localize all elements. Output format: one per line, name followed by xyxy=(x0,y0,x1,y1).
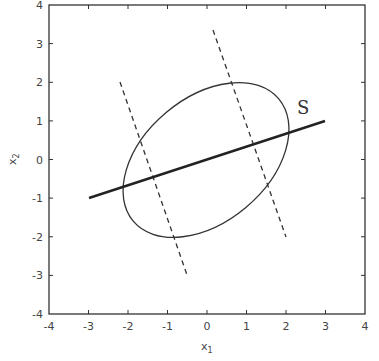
svg-text:1: 1 xyxy=(243,320,250,333)
svg-text:x2: x2 xyxy=(6,153,21,165)
line-s xyxy=(89,121,325,198)
svg-text:-1: -1 xyxy=(162,320,173,333)
svg-text:3: 3 xyxy=(322,320,329,333)
svg-text:0: 0 xyxy=(204,320,211,333)
svg-text:1: 1 xyxy=(36,115,43,128)
y-axis-label: x2 xyxy=(6,153,21,165)
svg-text:-1: -1 xyxy=(32,192,43,205)
y-tick-labels: 4 3 2 1 0 -1 -2 -3 -4 xyxy=(32,0,43,321)
svg-text:-2: -2 xyxy=(123,320,134,333)
svg-text:-4: -4 xyxy=(44,320,55,333)
svg-text:-3: -3 xyxy=(32,269,43,282)
svg-text:2: 2 xyxy=(283,320,290,333)
x-tick-labels: -4 -3 -2 -1 0 1 2 3 4 xyxy=(44,320,369,333)
svg-text:0: 0 xyxy=(36,154,43,167)
svg-text:3: 3 xyxy=(36,38,43,51)
svg-text:4: 4 xyxy=(362,320,369,333)
svg-text:4: 4 xyxy=(36,0,43,12)
svg-text:2: 2 xyxy=(36,76,43,89)
svg-text:-3: -3 xyxy=(83,320,94,333)
s-label: S xyxy=(297,97,309,118)
plot-canvas: -4 -3 -2 -1 0 1 2 3 4 4 3 2 1 0 -1 -2 -3… xyxy=(0,0,379,361)
dashed-line-left xyxy=(120,82,187,275)
dashed-line-right xyxy=(213,30,286,237)
svg-text:-4: -4 xyxy=(32,308,43,321)
svg-text:-2: -2 xyxy=(32,231,43,244)
x-axis-label: x1 xyxy=(201,340,213,355)
svg-text:x1: x1 xyxy=(201,340,213,355)
